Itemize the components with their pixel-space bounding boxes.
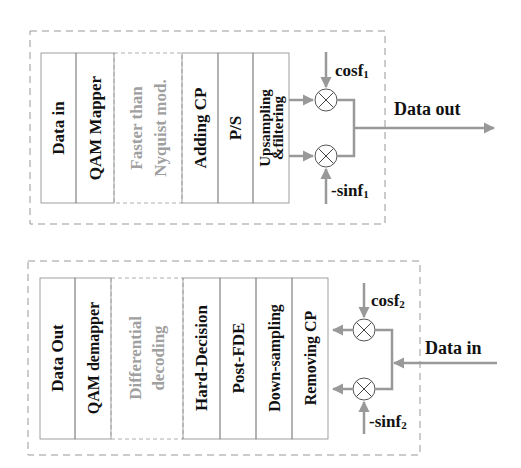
ofdm-ftn-block-diagram: Data in QAM Mapper Faster than Nyquist m… bbox=[0, 0, 521, 468]
mixer-top-icon bbox=[315, 89, 337, 111]
block-label-data-out: Data Out bbox=[48, 324, 67, 392]
mixer-bottom-rx-icon bbox=[353, 378, 375, 400]
block-label-ftn-line2: Nyquist mod. bbox=[151, 79, 170, 176]
block-label-upsampling-line2: &filtering bbox=[270, 95, 286, 160]
block-label-qam-demapper: QAM demapper bbox=[85, 302, 103, 414]
combiner-line bbox=[337, 100, 354, 156]
block-label-removing-cp: Removing CP bbox=[302, 310, 320, 405]
block-label-data-in: Data in bbox=[49, 101, 68, 155]
block-label-qam-mapper: QAM Mapper bbox=[86, 75, 105, 180]
block-label-hard-decision: Hard-Decision bbox=[192, 305, 211, 411]
block-label-diff-line2: decoding bbox=[149, 325, 168, 391]
carrier-label-sin2: -sinf2 bbox=[369, 412, 407, 431]
mixer-top-rx-icon bbox=[353, 319, 375, 341]
splitter-line bbox=[375, 330, 392, 389]
block-ftn-mod bbox=[114, 53, 182, 203]
block-label-ps: P/S bbox=[226, 116, 245, 141]
carrier-label-sin1: -sinf1 bbox=[331, 181, 369, 200]
block-label-post-fde: Post-FDE bbox=[229, 323, 248, 394]
block-label-adding-cp: Adding CP bbox=[191, 88, 210, 169]
block-differential-decoding bbox=[111, 278, 183, 439]
output-label: Data out bbox=[394, 99, 461, 119]
carrier-label-cos1: cosf1 bbox=[335, 61, 369, 80]
transmitter-diagram: Data in QAM Mapper Faster than Nyquist m… bbox=[30, 31, 494, 224]
receiver-diagram: Data Out QAM demapper Differential decod… bbox=[28, 261, 497, 455]
receiver-blocks bbox=[40, 278, 328, 439]
block-label-ftn-line1: Faster than bbox=[127, 86, 146, 170]
mixer-bottom-icon bbox=[315, 145, 337, 167]
block-label-down-sampling: Down-sampling bbox=[266, 304, 284, 412]
carrier-label-cos2: cosf2 bbox=[371, 291, 405, 310]
block-label-diff-line1: Differential bbox=[126, 316, 145, 400]
input-label: Data in bbox=[425, 338, 482, 358]
